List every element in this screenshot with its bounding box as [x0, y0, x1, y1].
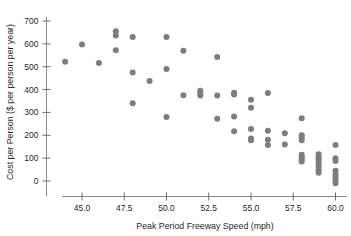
data-point — [164, 114, 170, 120]
data-point — [214, 54, 220, 60]
data-point — [333, 158, 339, 164]
data-point — [248, 105, 254, 111]
y-tick-label: 100 — [24, 153, 38, 163]
data-point — [299, 159, 305, 165]
y-axis-title: Cost per Person ($ per person per year) — [5, 24, 15, 180]
x-tick-label: 47.5 — [116, 203, 133, 213]
y-tick-label: 200 — [24, 130, 38, 140]
data-point — [282, 130, 288, 136]
data-point — [282, 141, 288, 147]
data-point — [130, 34, 136, 40]
data-point — [164, 34, 170, 40]
data-point — [316, 170, 322, 176]
data-point — [265, 128, 271, 134]
x-tick-group: 45.047.550.052.555.057.560.0 — [74, 193, 344, 214]
x-tick-label: 45.0 — [74, 203, 91, 213]
x-tick-label: 52.5 — [200, 203, 217, 213]
data-point — [265, 90, 271, 96]
data-point — [214, 116, 220, 122]
data-point — [299, 137, 305, 143]
data-point — [231, 114, 237, 120]
x-tick-label: 55.0 — [243, 203, 260, 213]
y-tick-label: 600 — [24, 39, 38, 49]
data-point — [333, 142, 339, 148]
data-point — [265, 142, 271, 148]
data-point — [180, 48, 186, 54]
y-tick-label: 400 — [24, 85, 38, 95]
data-point — [113, 47, 119, 53]
data-point — [113, 32, 119, 38]
y-tick-label: 0 — [34, 176, 39, 186]
x-tick-label: 50.0 — [158, 203, 175, 213]
data-point — [248, 97, 254, 103]
data-point — [248, 137, 254, 143]
data-point — [231, 92, 237, 98]
data-point — [79, 42, 85, 48]
data-point — [231, 128, 237, 134]
y-tick-label: 300 — [24, 107, 38, 117]
data-point — [147, 78, 153, 84]
data-point — [197, 93, 203, 99]
data-point — [62, 59, 68, 65]
data-point — [214, 93, 220, 99]
scatter-plot: 0100200300400500600700 45.047.550.052.55… — [0, 0, 351, 236]
data-point — [96, 60, 102, 66]
data-point — [180, 92, 186, 98]
x-tick-label: 60.0 — [327, 203, 344, 213]
x-axis-title: Peak Period Freeway Speed (mph) — [136, 221, 273, 231]
data-point — [299, 115, 305, 121]
x-tick-label: 57.5 — [285, 203, 302, 213]
data-point — [164, 66, 170, 72]
data-point — [248, 126, 254, 132]
y-tick-label: 700 — [24, 16, 38, 26]
data-point — [333, 180, 339, 186]
data-point — [130, 100, 136, 106]
data-point — [130, 69, 136, 75]
y-tick-label: 500 — [24, 62, 38, 72]
data-point-group — [62, 28, 338, 186]
